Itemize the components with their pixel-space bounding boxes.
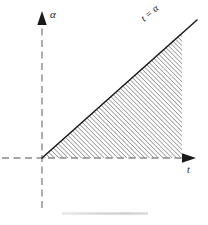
t-axis-label: t	[187, 165, 190, 175]
alpha-axis-arrowhead	[37, 11, 46, 25]
t-axis-arrowhead	[182, 153, 196, 163]
figure-container: α t t = α	[0, 0, 208, 225]
math-diagram-svg	[0, 0, 208, 225]
alpha-axis-label: α	[50, 9, 56, 20]
alpha-axis	[37, 11, 46, 208]
